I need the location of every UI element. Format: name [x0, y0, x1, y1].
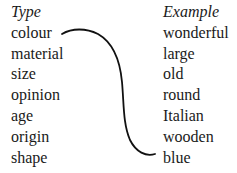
colour-to-blue-connector-line [0, 0, 237, 173]
